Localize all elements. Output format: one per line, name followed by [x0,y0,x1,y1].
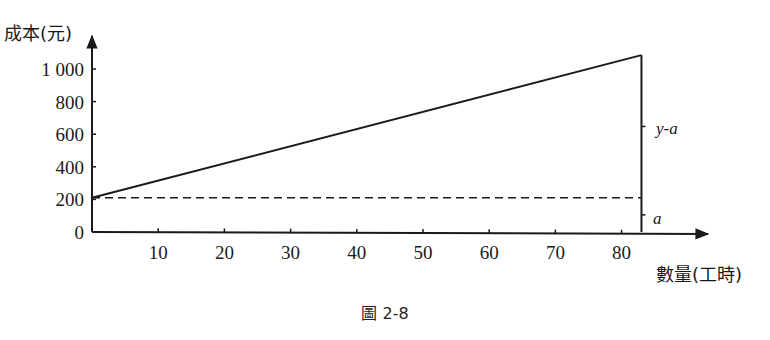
y-tick-label: 200 [56,189,85,210]
y-ticks: 02004006008001 000 [41,59,96,243]
x-tick-label: 80 [612,242,631,263]
y-axis-title: 成本(元) [4,23,72,44]
x-tick-label: 50 [414,242,433,263]
x-axis [92,232,708,234]
x-tick-label: 30 [281,242,300,263]
total-cost-line [92,55,641,198]
y-tick-label: 1 000 [41,59,84,80]
x-tick-label: 10 [149,242,168,263]
annotation-a: a [653,209,662,228]
y-tick-label: 600 [56,124,85,145]
chart-canvas: 02004006008001 000 1020304050607080 成本(元… [0,0,770,300]
x-axis-title: 數量(工時) [656,264,742,285]
x-tick-label: 40 [347,242,366,263]
x-tick-label: 70 [546,242,565,263]
figure-caption: 圖 2-8 [0,300,770,324]
y-tick-label: 400 [56,157,85,178]
x-tick-label: 20 [215,242,234,263]
y-tick-label: 0 [75,222,85,243]
annotation-y-minus-a: y-a [654,119,678,138]
x-tick-label: 60 [480,242,499,263]
y-tick-label: 800 [56,92,85,113]
plot-lines [92,55,645,232]
